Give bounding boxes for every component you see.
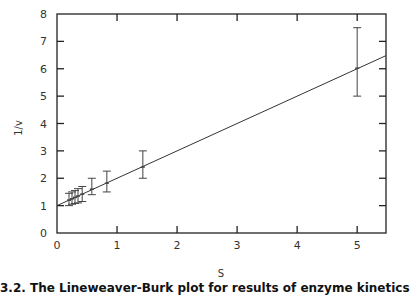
x-tick-label: 3: [234, 239, 241, 252]
figure-caption: 3.2. The Lineweaver-Burk plot for result…: [0, 281, 410, 295]
x-axis-label: S: [218, 268, 224, 279]
x-axis-ticks: 012345: [54, 14, 361, 252]
data-points: [65, 28, 361, 206]
y-tick-label: 7: [40, 35, 47, 48]
y-tick-label: 5: [40, 90, 47, 103]
y-tick-label: 4: [40, 118, 47, 131]
data-point: [88, 178, 96, 194]
data-point: [353, 28, 361, 96]
y-tick-label: 0: [40, 227, 47, 240]
y-axis-ticks: 012345678: [40, 8, 386, 240]
y-tick-label: 1: [40, 200, 47, 213]
x-tick-label: 4: [294, 239, 301, 252]
x-tick-label: 2: [174, 239, 181, 252]
y-tick-label: 6: [40, 63, 47, 76]
x-tick-label: 0: [54, 239, 61, 252]
y-axis-label: 1/v: [13, 120, 24, 136]
y-tick-label: 8: [40, 8, 47, 21]
data-point: [139, 151, 147, 178]
plot-frame: [57, 14, 386, 233]
x-tick-label: 5: [354, 239, 361, 252]
y-tick-label: 2: [40, 172, 47, 185]
y-tick-label: 3: [40, 145, 47, 158]
x-tick-label: 1: [114, 239, 121, 252]
plot-border: [57, 14, 386, 233]
